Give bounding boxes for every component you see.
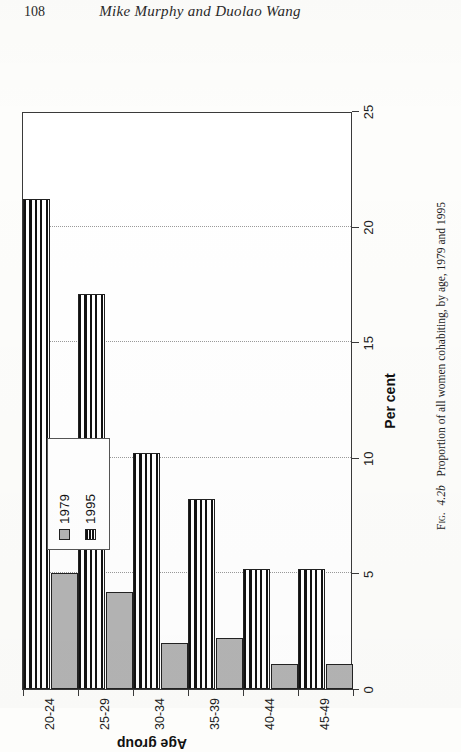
bar-1995-45-49: [298, 569, 325, 689]
value-tick-label-25: 25: [361, 105, 376, 119]
category-label-40-44: 40-44: [263, 698, 277, 742]
value-tick: [352, 689, 359, 690]
legend-swatch-1995-icon: [85, 529, 96, 540]
bar-1995-30-34: [133, 453, 160, 689]
figure-caption: Fig. 4.2b Proportion of all women cohabi…: [435, 230, 447, 530]
figure-number: 4.2b: [435, 485, 447, 505]
legend-item-1979: 1979: [58, 494, 72, 540]
value-axis-title: Per cent: [382, 112, 398, 690]
category-tick: [188, 689, 189, 696]
value-tick: [352, 458, 359, 459]
value-tick: [352, 342, 359, 343]
category-tick: [133, 689, 134, 696]
bar-1979-40-44: [271, 664, 298, 689]
category-label-25-29: 25-29: [98, 698, 112, 742]
category-tick: [23, 689, 24, 696]
chart-legend: 1979 1995: [47, 438, 110, 550]
value-tick-label-10: 10: [361, 452, 376, 466]
bar-1979-35-39: [216, 638, 243, 689]
category-label-35-39: 35-39: [208, 698, 222, 742]
bar-1979-30-34: [161, 643, 188, 689]
category-label-20-24: 20-24: [43, 698, 57, 742]
category-label-30-34: 30-34: [153, 698, 167, 742]
figure-caption-prefix: Fig.: [435, 512, 447, 530]
legend-item-1995: 1995: [84, 494, 98, 540]
legend-label-1979: 1979: [58, 494, 72, 524]
bar-1979-45-49: [326, 664, 353, 689]
bar-1979-25-29: [106, 592, 133, 689]
running-title: Mike Murphy and Duolao Wang: [0, 3, 400, 20]
value-tick: [352, 573, 359, 574]
value-tick-label-20: 20: [361, 220, 376, 234]
legend-swatch-1979-icon: [59, 529, 70, 540]
bar-1995-35-39: [188, 499, 215, 689]
figure-chart: 1979 1995 0510152025 Per cent Age group …: [14, 102, 414, 750]
category-tick: [243, 689, 244, 696]
value-tick-label-5: 5: [361, 571, 376, 578]
bar-1979-20-24: [51, 573, 78, 689]
legend-label-1995: 1995: [84, 494, 98, 524]
category-tick: [78, 689, 79, 696]
category-label-45-49: 45-49: [318, 698, 332, 742]
value-tick-label-15: 15: [361, 336, 376, 350]
value-tick: [352, 227, 359, 228]
gridline: [23, 341, 351, 342]
page-running-head: 108 Mike Murphy and Duolao Wang: [0, 0, 461, 30]
plot-area: 1979 1995: [22, 112, 352, 690]
bar-1995-20-24: [23, 199, 50, 689]
bar-1995-40-44: [243, 569, 270, 689]
category-tick: [353, 689, 354, 696]
gridline: [23, 226, 351, 227]
category-tick: [298, 689, 299, 696]
value-tick-label-0: 0: [361, 686, 376, 693]
value-tick: [352, 111, 359, 112]
figure-caption-text: Proportion of all women cohabiting, by a…: [435, 202, 447, 476]
